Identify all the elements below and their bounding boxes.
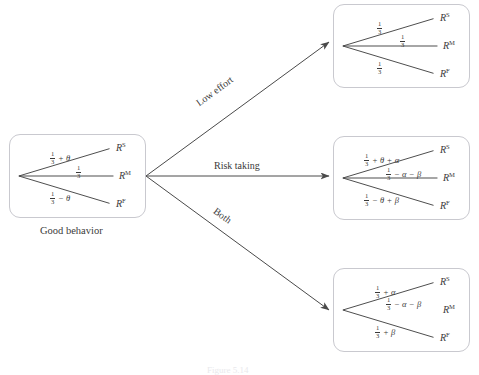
outcome-label-success-low-effort-outcome: RS xyxy=(440,13,450,23)
prob-tail-bot-risk-taking-outcome: − θ + β xyxy=(370,195,399,205)
edge-label-risk-taking: Risk taking xyxy=(214,161,260,171)
outcome-label-failure-risk-taking-outcome: RF xyxy=(440,201,450,211)
fraction-bot-low-effort-outcome: 13 xyxy=(377,61,382,75)
prob-tail-top-good-behavior: + θ xyxy=(56,153,71,163)
outcome-label-success-risk-taking-outcome: RS xyxy=(440,145,450,155)
prob-tail-top-risk-taking-outcome: + θ + α xyxy=(370,155,399,165)
prob-label-bot-risk-taking-outcome: 13 − θ + β xyxy=(364,193,399,207)
prob-label-top-low-effort-outcome: 13 xyxy=(377,21,383,35)
outcome-label-medium-low-effort-outcome: RM xyxy=(443,41,455,51)
outcome-label-medium-risk-taking-outcome: RM xyxy=(443,173,455,183)
caption-good-behavior: Good behavior xyxy=(40,226,103,237)
node-both-outcome[interactable]: 13 + α 13 − α − β 13 + β RS RM RF xyxy=(333,268,470,352)
outcome-label-failure-both-outcome: RF xyxy=(440,333,450,343)
prob-label-mid-both-outcome: 13 − α − β xyxy=(386,297,421,311)
prob-label-mid-low-effort-outcome: 13 xyxy=(400,34,406,48)
outcome-label-success-good-behavior: RS xyxy=(116,143,126,153)
prob-label-top-risk-taking-outcome: 13 + θ + α xyxy=(364,153,399,167)
fraction-mid-both-outcome: 13 xyxy=(386,297,391,311)
fraction-top-both-outcome: 13 xyxy=(375,285,380,299)
fraction-mid-low-effort-outcome: 13 xyxy=(400,34,405,48)
outcome-label-failure-low-effort-outcome: RF xyxy=(440,69,450,79)
edge-low-effort xyxy=(146,42,329,176)
fraction-mid-risk-taking-outcome: 13 xyxy=(386,167,391,181)
prob-label-bot-low-effort-outcome: 13 xyxy=(377,61,383,75)
outcome-label-medium-both-outcome: RM xyxy=(443,305,455,315)
prob-label-top-good-behavior: 13 + θ xyxy=(50,151,70,165)
fraction-top-good-behavior: 13 xyxy=(50,151,55,165)
node-low-effort-outcome[interactable]: 13 13 13 RS RM RF xyxy=(333,4,470,88)
prob-label-mid-good-behavior: 13 xyxy=(76,165,82,179)
edge-both xyxy=(146,176,329,310)
fraction-bot-risk-taking-outcome: 13 xyxy=(364,193,369,207)
node-good-behavior[interactable]: 13 + θ 13 13 − θ RS RM RF xyxy=(9,134,146,218)
fraction-bot-good-behavior: 13 xyxy=(50,191,55,205)
figure-caption: Figure 5.14 xyxy=(207,366,249,375)
fraction-top-risk-taking-outcome: 13 xyxy=(364,153,369,167)
fraction-top-low-effort-outcome: 13 xyxy=(377,21,382,35)
node-risk-taking-outcome[interactable]: 13 + θ + α 13 − α − β 13 − θ + β RS RM R… xyxy=(333,136,470,220)
prob-tail-bot-good-behavior: − θ xyxy=(56,193,71,203)
outcome-label-failure-good-behavior: RF xyxy=(116,199,126,209)
outcome-label-success-both-outcome: RS xyxy=(440,277,450,287)
prob-label-mid-risk-taking-outcome: 13 − α − β xyxy=(386,167,421,181)
prob-label-bot-both-outcome: 13 + β xyxy=(375,325,395,339)
prob-tail-mid-both-outcome: − α − β xyxy=(392,299,421,309)
prob-tail-mid-risk-taking-outcome: − α − β xyxy=(392,169,421,179)
prob-label-bot-good-behavior: 13 − θ xyxy=(50,191,70,205)
prob-tail-bot-both-outcome: + β xyxy=(381,327,396,337)
fraction-mid-good-behavior: 13 xyxy=(76,165,81,179)
fraction-bot-both-outcome: 13 xyxy=(375,325,380,339)
outcome-label-medium-good-behavior: RM xyxy=(119,171,131,181)
